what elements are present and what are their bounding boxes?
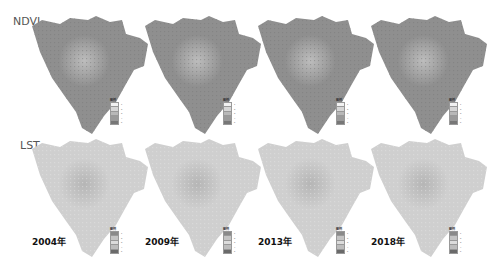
legend-item: 5 — [223, 120, 245, 125]
legend-label: 2 — [121, 237, 122, 239]
map-panel-ndvi-0 — [30, 14, 154, 134]
legend-label: 4 — [460, 246, 461, 248]
legend-label: 4 — [234, 246, 235, 248]
legend-item: 5 — [336, 120, 358, 125]
legend-label: 5 — [347, 121, 348, 123]
legend-label: 3 — [460, 241, 461, 243]
legend-label: 5 — [234, 250, 235, 252]
region-map-icon — [369, 14, 493, 136]
legend-label: 2 — [121, 108, 122, 110]
legend-label: 3 — [460, 112, 461, 114]
legend-label: 1 — [121, 232, 122, 234]
legend-item: 5 — [336, 249, 358, 254]
legend-item: 5 — [110, 249, 132, 254]
legend-swatch — [336, 120, 345, 126]
legend-label: 1 — [347, 103, 348, 105]
legend-label: 3 — [347, 112, 348, 114]
year-label: 2004年 — [32, 235, 66, 248]
legend-label: 1 — [347, 232, 348, 234]
legend-swatch — [449, 249, 458, 255]
legend-item: 5 — [449, 120, 471, 125]
year-label: 2018年 — [371, 235, 405, 248]
legend-swatch — [110, 249, 119, 255]
map-panel-ndvi-1 — [143, 14, 267, 134]
map-legend: 图例12345 — [223, 98, 245, 125]
legend-label: 1 — [234, 232, 235, 234]
legend-label: 5 — [234, 121, 235, 123]
legend-swatch — [223, 120, 232, 126]
year-label: 2009年 — [145, 235, 179, 248]
map-legend: 图例12345 — [110, 227, 132, 254]
legend-label: 2 — [234, 237, 235, 239]
legend-label: 3 — [347, 241, 348, 243]
map-panel-ndvi-3 — [369, 14, 493, 134]
map-panel-ndvi-2 — [256, 14, 380, 134]
legend-label: 4 — [121, 246, 122, 248]
legend-label: 5 — [460, 250, 461, 252]
legend-label: 1 — [460, 103, 461, 105]
legend-label: 5 — [121, 250, 122, 252]
region-map-icon — [256, 14, 380, 136]
region-map-icon — [30, 14, 154, 136]
legend-label: 3 — [121, 112, 122, 114]
legend-label: 4 — [460, 117, 461, 119]
legend-label: 2 — [460, 237, 461, 239]
legend-label: 4 — [234, 117, 235, 119]
map-legend: 图例12345 — [449, 98, 471, 125]
region-map-icon — [143, 14, 267, 136]
map-legend: 图例12345 — [336, 98, 358, 125]
legend-swatch — [449, 120, 458, 126]
legend-label: 1 — [460, 232, 461, 234]
legend-label: 4 — [121, 117, 122, 119]
legend-swatch — [223, 249, 232, 255]
year-label: 2013年 — [258, 235, 292, 248]
legend-label: 1 — [121, 103, 122, 105]
legend-label: 5 — [121, 121, 122, 123]
legend-label: 4 — [347, 246, 348, 248]
map-legend: 图例12345 — [449, 227, 471, 254]
legend-label: 3 — [234, 241, 235, 243]
legend-label: 1 — [234, 103, 235, 105]
legend-label: 5 — [460, 121, 461, 123]
map-legend: 图例12345 — [223, 227, 245, 254]
legend-label: 2 — [460, 108, 461, 110]
legend-label: 3 — [121, 241, 122, 243]
legend-item: 5 — [449, 249, 471, 254]
map-legend: 图例12345 — [336, 227, 358, 254]
legend-label: 2 — [347, 108, 348, 110]
map-legend: 图例12345 — [110, 98, 132, 125]
legend-label: 4 — [347, 117, 348, 119]
legend-label: 2 — [234, 108, 235, 110]
legend-label: 3 — [234, 112, 235, 114]
legend-swatch — [336, 249, 345, 255]
legend-item: 5 — [223, 249, 245, 254]
legend-label: 5 — [347, 250, 348, 252]
legend-item: 5 — [110, 120, 132, 125]
legend-label: 2 — [347, 237, 348, 239]
legend-swatch — [110, 120, 119, 126]
